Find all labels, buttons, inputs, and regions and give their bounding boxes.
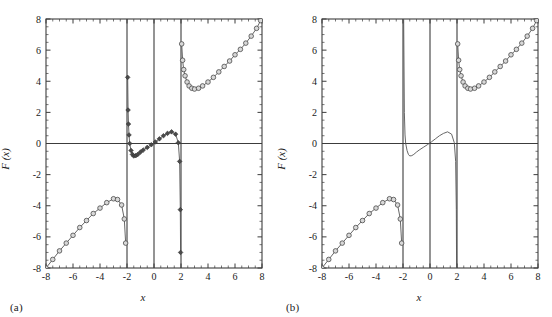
data-point-marker [183,74,188,79]
y-tick-label: 8 [36,14,41,25]
y-tick-label: 4 [36,76,41,87]
x-tick-label: 2 [179,271,184,282]
data-point-marker [217,70,222,75]
data-point-marker [98,206,103,211]
data-point-marker [493,70,498,75]
y-tick-label: 2 [312,107,317,118]
x-tick-label: -2 [399,271,407,282]
data-point-marker [227,59,232,64]
y-tick-label: -6 [33,231,41,242]
data-point-marker [520,41,525,46]
x-tick-label: 6 [509,271,514,282]
data-point-marker [119,203,124,208]
data-point-marker [178,250,183,255]
x-tick-label: 4 [482,271,487,282]
x-tick-label: 8 [536,271,541,282]
y-tick-label: -2 [33,169,41,180]
data-point-marker [498,64,503,69]
data-point-marker [200,84,205,89]
figure-container: -8-6-4-202468-8-6-4-202468 F (x) x (a) -… [0,0,552,317]
data-point-marker [525,34,530,39]
data-point-marker [71,233,76,238]
data-point-marker [399,241,404,246]
data-point-marker [395,203,400,208]
data-point-marker [459,74,464,79]
data-point-marker [125,75,130,80]
data-point-marker [476,84,481,89]
y-tick-label: 2 [36,107,41,118]
data-point-marker [233,52,238,57]
panel-label-a: (a) [10,301,23,313]
data-point-marker [77,225,82,230]
data-point-marker [380,200,385,205]
data-point-marker [173,132,178,137]
data-point-marker [104,200,109,205]
plot-a: -8-6-4-202468-8-6-4-202468 [0,0,276,317]
x-axis-title-text-a: x [141,291,146,303]
panel-b: -8-6-4-202468-8-6-4-202468 F (x) x (b) [276,0,552,317]
x-axis-title-a: x [0,291,276,303]
plot-b: -8-6-4-202468-8-6-4-202468 [276,0,552,317]
y-tick-label: 8 [312,14,317,25]
x-tick-label: -6 [69,271,77,282]
x-tick-label: -6 [345,271,353,282]
data-point-marker [254,26,259,31]
x-axis-title-b: x [276,291,552,303]
data-point-marker [206,80,211,85]
x-tick-label: -8 [42,271,50,282]
data-point-marker [457,67,462,72]
data-point-marker [320,266,325,271]
x-tick-label: -2 [123,271,131,282]
y-tick-label: -8 [309,263,317,274]
panel-label-b: (b) [286,301,299,313]
data-point-marker [503,59,508,64]
y-tick-label: -6 [309,231,317,242]
y-tick-label: -4 [309,200,317,211]
x-tick-label: 6 [233,271,238,282]
data-point-marker [44,266,49,271]
y-tick-label: 4 [312,76,317,87]
data-point-marker [123,241,128,246]
x-tick-label: -4 [96,271,104,282]
y-tick-label: -4 [33,200,41,211]
y-tick-label: 6 [312,45,317,56]
data-point-marker [50,257,55,262]
series-line [46,199,126,268]
series-line [182,21,261,89]
data-point-marker [509,52,514,57]
data-point-marker [391,197,396,202]
data-point-marker [181,67,186,72]
data-point-marker [482,80,487,85]
x-tick-label: 2 [455,271,460,282]
panel-a: -8-6-4-202468-8-6-4-202468 F (x) x (a) [0,0,276,317]
data-point-marker [222,64,227,69]
series-line [322,199,402,268]
data-point-marker [326,257,331,262]
data-point-marker [455,42,460,47]
data-point-marker [530,26,535,31]
y-tick-label: 0 [312,138,317,149]
y-tick-label: -2 [309,169,317,180]
data-point-marker [244,41,249,46]
x-tick-label: 8 [260,271,265,282]
y-tick-label: 0 [36,138,41,149]
y-tick-label: -8 [33,263,41,274]
data-point-marker [84,218,89,223]
y-tick-label: 6 [36,45,41,56]
data-point-marker [115,197,120,202]
data-point-marker [347,233,352,238]
y-axis-title-text-b: F (x) [275,148,287,170]
data-point-marker [57,249,62,254]
data-point-marker [122,217,127,222]
data-point-marker [180,58,185,63]
data-point-marker [211,75,216,80]
x-axis-title-text-b: x [417,291,422,303]
y-axis-title-a: F (x) [0,148,11,170]
data-point-marker [178,207,183,212]
data-point-marker [333,249,338,254]
data-point-marker [176,140,181,145]
y-axis-title-b: F (x) [275,148,287,170]
data-point-marker [64,241,69,246]
data-point-marker [374,206,379,211]
data-point-marker [360,218,365,223]
